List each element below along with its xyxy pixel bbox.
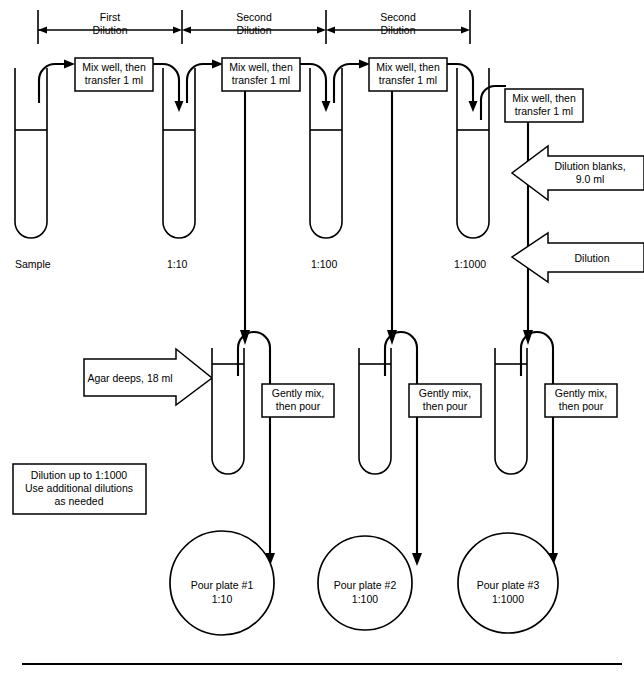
dilution-tube-1-1000: 1:1000 bbox=[454, 68, 489, 270]
pour-box-3: Gently mix, then pour bbox=[545, 384, 617, 417]
bracket-label-line1: Second bbox=[236, 11, 272, 23]
transfer-box-line2: transfer 1 ml bbox=[85, 74, 143, 86]
drop-line-1 bbox=[240, 91, 250, 345]
bracket-label-line2: Dilution bbox=[92, 24, 127, 36]
side-arrow-dilution-blanks: Dilution blanks, 9.0 ml bbox=[512, 146, 644, 200]
petri-plate-3: Pour plate #3 1:1000 bbox=[458, 533, 558, 633]
transfer-box-3: Mix well, then transfer 1 ml bbox=[369, 58, 447, 91]
pour-box-line1: Gently mix, bbox=[555, 387, 608, 399]
bracket-label-line2: Dilution bbox=[380, 24, 415, 36]
petri-plate-1: Pour plate #1 1:10 bbox=[170, 531, 274, 635]
pour-box-line2: then pour bbox=[423, 400, 468, 412]
transfer-box-1: Mix well, then transfer 1 ml bbox=[75, 58, 153, 91]
transfer-box-line1: Mix well, then bbox=[82, 61, 146, 73]
dilution-tube-label: 1:10 bbox=[167, 258, 188, 270]
plate-label-line2: 1:1000 bbox=[492, 593, 524, 605]
bracket-second-dilution: Second Dilution bbox=[182, 10, 326, 44]
side-arrow-label-line1: Dilution bbox=[574, 252, 609, 264]
dilution-tube-label: 1:1000 bbox=[454, 258, 486, 270]
agar-tube-1 bbox=[212, 348, 244, 474]
bracket-third-dilution: Second Dilution bbox=[326, 10, 470, 44]
plate-label-line1: Pour plate #2 bbox=[334, 579, 397, 591]
plate-label-line2: 1:10 bbox=[212, 593, 233, 605]
agar-tube-2 bbox=[359, 348, 391, 474]
note-line1: Dilution up to 1:1000 bbox=[31, 469, 127, 481]
bracket-label-line1: First bbox=[100, 11, 120, 23]
petri-plate-2: Pour plate #2 1:100 bbox=[318, 536, 412, 630]
transfer-box-line1: Mix well, then bbox=[376, 61, 440, 73]
pour-box-line1: Gently mix, bbox=[272, 387, 325, 399]
drop-line-3 bbox=[523, 122, 533, 345]
dilution-tube-label: 1:100 bbox=[311, 258, 337, 270]
transfer-box-line2: transfer 1 ml bbox=[515, 105, 573, 117]
transfer-box-2: Mix well, then transfer 1 ml bbox=[222, 58, 300, 91]
serial-dilution-diagram: First Dilution Second Dilution Second Di… bbox=[0, 0, 644, 677]
transfer-box-4: Mix well, then transfer 1 ml bbox=[505, 89, 583, 122]
side-arrow-label-line2: 9.0 ml bbox=[576, 173, 605, 185]
transfer-box-line2: transfer 1 ml bbox=[379, 74, 437, 86]
drop-line-2 bbox=[387, 91, 397, 345]
transfer-box-line1: Mix well, then bbox=[512, 92, 576, 104]
plate-label-line1: Pour plate #1 bbox=[191, 579, 254, 591]
pour-box-line2: then pour bbox=[559, 400, 604, 412]
bracket-ruler: First Dilution Second Dilution Second Di… bbox=[38, 10, 470, 44]
dilution-tube-label: Sample bbox=[15, 258, 51, 270]
agar-deeps-label: Agar deeps, 18 ml bbox=[87, 372, 172, 384]
pour-box-line2: then pour bbox=[276, 400, 321, 412]
note-line2: Use additional dilutions bbox=[25, 482, 133, 494]
transfer-box-line1: Mix well, then bbox=[229, 61, 293, 73]
side-arrow-dilution: Dilution bbox=[512, 233, 644, 282]
pour-box-1: Gently mix, then pour bbox=[262, 384, 334, 417]
pour-box-2: Gently mix, then pour bbox=[409, 384, 481, 417]
dilution-tube-sample: Sample bbox=[15, 68, 51, 270]
plate-label-line2: 1:100 bbox=[352, 593, 378, 605]
bracket-label-line1: Second bbox=[380, 11, 416, 23]
pour-box-line1: Gently mix, bbox=[419, 387, 472, 399]
agar-tube-3 bbox=[495, 348, 527, 474]
bracket-label-line2: Dilution bbox=[236, 24, 271, 36]
note-line3: as needed bbox=[54, 495, 103, 507]
agar-deeps-arrow: Agar deeps, 18 ml bbox=[84, 349, 212, 405]
bracket-first-dilution: First Dilution bbox=[38, 10, 182, 44]
transfer-box-line2: transfer 1 ml bbox=[232, 74, 290, 86]
side-arrow-label-line1: Dilution blanks, bbox=[554, 160, 625, 172]
plate-label-line1: Pour plate #3 bbox=[477, 579, 540, 591]
note-box: Dilution up to 1:1000 Use additional dil… bbox=[13, 464, 146, 514]
